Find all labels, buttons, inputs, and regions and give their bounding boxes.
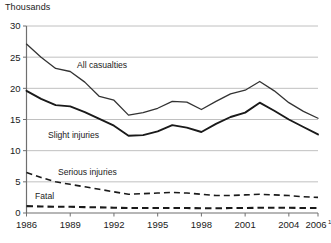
x-tick-label: 1986 [16,219,37,230]
line-chart-plot: 051015202530 198619891992199519982001200… [0,0,331,243]
y-tick-label: 5 [15,176,20,187]
x-tick-label: 2001 [235,219,256,230]
gridlines [27,26,319,182]
series-label-all-casualties: All casualties [77,60,127,70]
y-axis-ticks: 051015202530 [10,20,27,218]
series-label-fatal: Fatal [35,191,54,201]
y-tick-label: 0 [15,207,20,218]
data-series [27,44,319,208]
x-tick-label: 1989 [60,219,81,230]
x-tick-label: 1992 [103,219,124,230]
y-tick-label: 30 [10,20,21,31]
series-label-slight-injuries: Slight injuries [48,130,99,140]
series-label-serious-injuries: Serious injuries [58,167,117,177]
y-tick-label: 10 [10,145,21,156]
x-tick-label: 1995 [147,219,168,230]
y-tick-label: 20 [10,83,21,94]
x-tick-label: 1998 [191,219,212,230]
x-tick-label: 2006 [305,219,326,230]
chart-container: Thousands 051015202530 19861989199219951… [0,0,331,243]
series-line-slight-injuries [27,91,319,136]
y-tick-label: 25 [10,52,21,63]
series-line-fatal [27,206,319,208]
x-axis-ticks: 198619891992199519982001200420061 [16,213,331,230]
y-tick-label: 15 [10,114,21,125]
x-tick-label: 2004 [278,219,299,230]
